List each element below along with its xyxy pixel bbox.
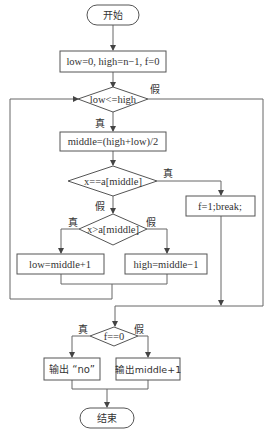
calc-middle-label: middle=(high+low)/2 (68, 136, 159, 148)
end-label: 结束 (97, 412, 117, 424)
flag-condition-node: f==0 (90, 327, 138, 346)
branch-labels: 假 真 真 假 真 假 真 假 (68, 83, 173, 335)
loop-true-label: 真 (95, 117, 105, 129)
flag-false-label: 假 (134, 323, 144, 335)
loop-condition-label: low<=high (90, 94, 137, 105)
flowchart: 开始 low=0, high=n−1, f=0 low<=high middle… (0, 0, 267, 435)
loop-false-label: 假 (150, 83, 160, 95)
output-no-node: 输出 “no” (44, 358, 100, 380)
equal-condition-label: x==a[middle] (84, 176, 142, 187)
equal-false-label: 假 (95, 200, 105, 212)
flag-true-label: 真 (78, 323, 88, 335)
move-low-label: low=middle+1 (29, 259, 91, 270)
greater-condition-node: x>a[middle] (79, 214, 147, 245)
found-label: f=1;break; (198, 201, 242, 212)
move-low-node: low=middle+1 (17, 254, 104, 274)
equal-condition-node: x==a[middle] (68, 166, 157, 196)
output-position-node: 输出middle+1 (115, 358, 181, 380)
greater-condition-label: x>a[middle] (87, 224, 139, 235)
end-node: 结束 (80, 408, 134, 428)
equal-true-label: 真 (163, 167, 173, 179)
move-high-label: high=middle−1 (134, 259, 199, 270)
start-node: 开始 (87, 5, 139, 25)
greater-true-label: 真 (68, 216, 78, 228)
greater-false-label: 假 (146, 216, 156, 228)
output-no-label: 输出 “no” (49, 363, 95, 375)
calc-middle-node: middle=(high+low)/2 (60, 132, 166, 151)
move-high-node: high=middle−1 (125, 254, 207, 274)
found-node: f=1;break; (186, 196, 255, 216)
loop-condition-node: low<=high (78, 87, 148, 112)
init-node: low=0, high=n−1, f=0 (60, 51, 166, 72)
flag-condition-label: f==0 (104, 331, 125, 342)
init-label: low=0, high=n−1, f=0 (66, 56, 159, 67)
output-position-label: 输出middle+1 (115, 364, 181, 375)
start-label: 开始 (103, 9, 123, 21)
